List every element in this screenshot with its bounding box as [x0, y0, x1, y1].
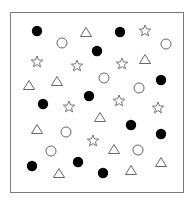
filled-circle-icon [73, 157, 83, 167]
triangle-icon [81, 28, 92, 37]
star-icon [87, 135, 98, 146]
filled-circle-icon [27, 161, 37, 171]
open-circle-icon [134, 83, 144, 93]
star-icon [139, 25, 150, 36]
filled-circle-icon [32, 26, 42, 36]
filled-circle-icon [92, 46, 102, 56]
open-circle-icon [133, 145, 143, 155]
star-icon [152, 102, 163, 113]
star-icon [113, 95, 124, 106]
triangle-icon [156, 158, 167, 167]
triangle-icon [109, 145, 120, 154]
triangle-icon [95, 113, 106, 122]
open-circle-icon [46, 146, 56, 156]
open-circle-icon [57, 38, 67, 48]
filled-circle-icon [115, 27, 125, 37]
filled-circle-icon [126, 120, 136, 130]
triangle-icon [126, 166, 137, 175]
open-circle-icon [99, 73, 109, 83]
shapes-group [24, 25, 172, 178]
triangle-icon [24, 81, 35, 90]
star-icon [63, 101, 74, 112]
open-circle-icon [161, 39, 171, 49]
triangle-icon [54, 169, 65, 178]
triangle-icon [140, 55, 151, 64]
star-icon [71, 60, 82, 71]
triangle-icon [52, 77, 63, 86]
filled-circle-icon [38, 99, 48, 109]
triangle-icon [32, 125, 43, 134]
filled-circle-icon [156, 75, 166, 85]
star-icon [31, 56, 42, 67]
star-icon [116, 58, 127, 69]
filled-circle-icon [156, 129, 166, 139]
open-circle-icon [61, 127, 71, 137]
filled-circle-icon [98, 168, 108, 178]
filled-circle-icon [84, 91, 94, 101]
shape-diagram [0, 0, 195, 202]
